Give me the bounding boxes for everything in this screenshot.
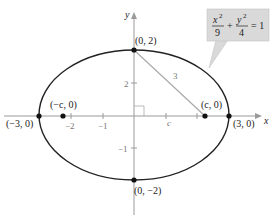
- x-tick-neg1: −1: [98, 121, 108, 131]
- y-tick-neg1: −1: [118, 144, 128, 154]
- eq-y-exponent: 2: [243, 12, 247, 20]
- equation-callout: x 2 9 + y 2 4 = 1: [207, 9, 269, 68]
- eq-x-exponent: 2: [219, 12, 223, 20]
- y-axis-arrow-icon: [131, 12, 137, 19]
- point-top: [131, 47, 136, 52]
- y-tick-2: 2: [124, 79, 129, 89]
- x-axis-label: x: [263, 115, 269, 126]
- segment-length-label: 3: [173, 71, 178, 81]
- ellipse-diagram: −2 −1 2 −1 x y 3 c (0, 2) (0, −2) (3, 0)…: [0, 0, 279, 219]
- point-focus-right: [202, 113, 207, 118]
- point-focus-left: [60, 113, 65, 118]
- y-axis-label: y: [124, 9, 130, 20]
- x-tick-neg2: −2: [65, 121, 75, 131]
- right-angle-marker: [134, 106, 144, 116]
- label-bottom: (0, −2): [134, 185, 161, 197]
- point-right-vertex: [226, 113, 231, 118]
- label-top: (0, 2): [135, 35, 157, 47]
- eq-y-denominator: 4: [239, 27, 244, 38]
- label-focus-right: (c, 0): [201, 99, 222, 111]
- eq-x-denominator: 9: [215, 27, 220, 38]
- label-left-vertex: (−3, 0): [6, 118, 33, 130]
- c-distance-label: c: [167, 118, 171, 128]
- hypotenuse-segment: [134, 50, 205, 116]
- eq-equals-one: = 1: [251, 20, 264, 31]
- point-left-vertex: [36, 113, 41, 118]
- x-axis-arrow-icon: [255, 113, 262, 119]
- eq-y-numerator: y: [236, 14, 242, 25]
- eq-x-numerator: x: [212, 14, 218, 25]
- point-bottom: [131, 177, 136, 182]
- label-right-vertex: (3, 0): [233, 118, 255, 130]
- callout-pointer: [209, 40, 228, 68]
- eq-plus: +: [227, 20, 233, 31]
- label-focus-left: (−c, 0): [50, 99, 77, 111]
